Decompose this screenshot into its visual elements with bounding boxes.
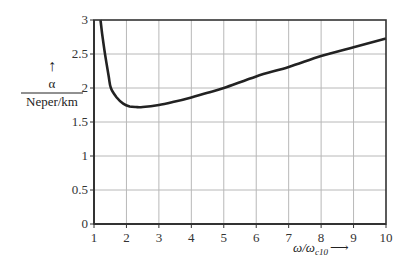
y-axis-label-numerator: α [49, 76, 56, 91]
y-axis-arrow-icon: ↑ [48, 57, 56, 74]
y-axis-ticks: 00.511.522.53 [72, 12, 94, 231]
x-tick-label: 5 [221, 230, 228, 245]
x-axis-label-subscript: c10 [315, 247, 328, 257]
x-axis-label-main: ω/ω [293, 240, 315, 255]
x-tick-label: 1 [91, 230, 98, 245]
attenuation-curve [101, 20, 387, 107]
y-tick-label: 0.5 [72, 182, 88, 197]
x-tick-label: 10 [380, 230, 393, 245]
x-tick-label: 8 [318, 230, 325, 245]
y-tick-label: 2.5 [72, 46, 88, 61]
y-tick-label: 1.5 [72, 114, 88, 129]
x-tick-label: 9 [350, 230, 357, 245]
attenuation-chart: 12345678910 00.511.522.53 ↑ α Neper/km ω… [0, 0, 409, 268]
y-axis-label: ↑ α Neper/km [21, 57, 83, 109]
x-tick-label: 4 [188, 230, 195, 245]
x-axis-arrow-icon: ⟶ [330, 240, 349, 255]
alpha-curve-line [101, 20, 387, 107]
y-tick-label: 3 [82, 12, 89, 27]
x-tick-label: 3 [156, 230, 163, 245]
y-tick-label: 1 [82, 148, 89, 163]
x-tick-label: 7 [285, 230, 292, 245]
x-tick-label: 6 [253, 230, 260, 245]
y-axis-label-denominator: Neper/km [26, 94, 78, 109]
x-tick-label: 2 [123, 230, 130, 245]
y-tick-label: 0 [82, 216, 89, 231]
